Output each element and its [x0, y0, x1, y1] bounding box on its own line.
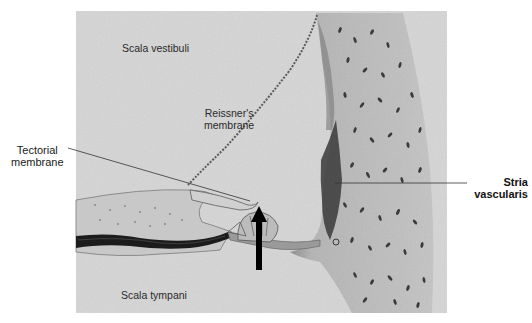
label-scala-tympani: Scala tympani — [121, 289, 187, 301]
label-tectorial-membrane: Tectorial membrane — [11, 144, 64, 168]
cochlea-illustration — [0, 0, 532, 323]
label-stria-vascularis: Stria vascularis — [468, 176, 528, 200]
label-stria-line1: Stria — [468, 176, 528, 188]
label-reissners-line2: membrane — [204, 119, 254, 131]
label-stria-line2: vascularis — [468, 188, 528, 200]
label-tectorial-line2: membrane — [11, 156, 64, 168]
label-reissners-membrane: Reissner's membrane — [204, 107, 254, 131]
label-scala-vestibuli: Scala vestibuli — [122, 42, 189, 54]
label-reissners-line1: Reissner's — [204, 107, 254, 119]
label-tectorial-line1: Tectorial — [11, 144, 64, 156]
